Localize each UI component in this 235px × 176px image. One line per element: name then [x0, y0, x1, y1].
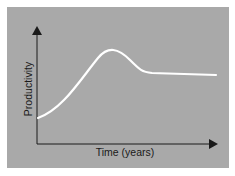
x-axis-arrow-icon: [209, 139, 218, 149]
x-axis-label: Time (years): [90, 146, 160, 158]
y-axis-label: Productivity: [22, 62, 34, 116]
productivity-curve: [38, 50, 216, 118]
y-axis-arrow-icon: [32, 26, 42, 35]
